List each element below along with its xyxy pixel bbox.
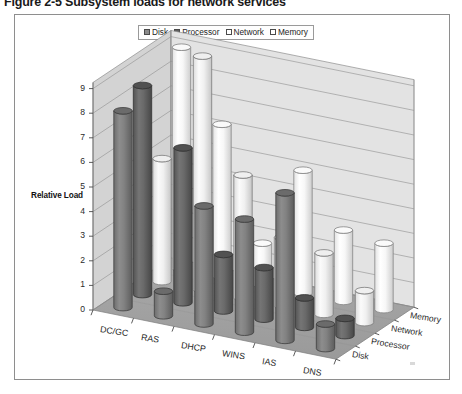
z-tick-disk: Disk: [351, 349, 369, 361]
figure-page: Figure 2-5 Subsystem loads for network s…: [0, 0, 462, 394]
y-tick-5: 5: [71, 181, 85, 191]
y-axis-title: Relative Load: [17, 191, 83, 200]
y-tick-6: 6: [71, 156, 85, 166]
y-tick-9: 9: [71, 83, 85, 93]
figure-caption: Figure 2-5 Subsystem loads for network s…: [4, 0, 404, 11]
chart-plot-area: Relative Load 0123456789 DC/GCRASDHCPWIN…: [15, 15, 451, 381]
x-tick-dns: DNS: [302, 365, 322, 378]
y-tick-0: 0: [71, 304, 85, 314]
y-tick-2: 2: [71, 255, 85, 265]
y-tick-4: 4: [71, 206, 85, 216]
figure-frame: Disk Processor Network Memory: [14, 14, 450, 380]
scan-artifact: [410, 362, 415, 365]
y-tick-3: 3: [71, 230, 85, 240]
y-tick-7: 7: [71, 132, 85, 142]
y-tick-1: 1: [71, 279, 85, 289]
y-tick-8: 8: [71, 107, 85, 117]
